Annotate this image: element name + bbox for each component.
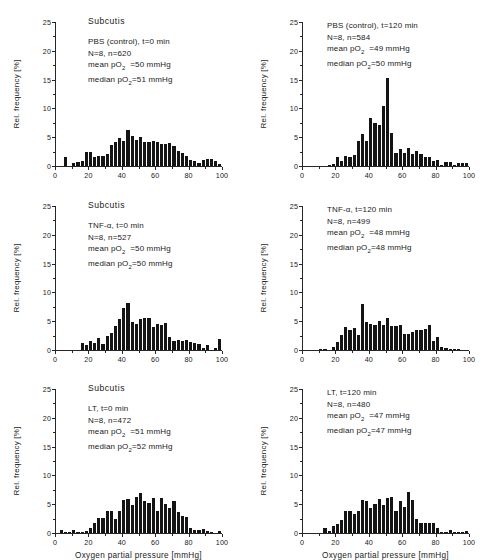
histogram-bar — [453, 349, 456, 350]
y-tick-label: 10 — [31, 471, 51, 480]
x-tick-label: 0 — [41, 355, 69, 364]
histogram-bar — [424, 329, 427, 350]
histogram-bar — [444, 532, 447, 533]
histogram-bar — [72, 530, 75, 533]
x-tick-label: 40 — [355, 355, 383, 364]
histogram-bar — [365, 141, 368, 166]
x-tick — [55, 534, 56, 537]
x-tick-label: 40 — [108, 355, 136, 364]
x-tick-label: 20 — [321, 171, 349, 180]
histogram-bar — [164, 504, 167, 533]
histogram-bar — [407, 334, 410, 350]
chart-panel-pbs-t120: 0204060801000510152025Rel. frequency [%]… — [247, 8, 501, 186]
histogram-bar — [147, 318, 150, 350]
histogram-bar — [202, 529, 205, 533]
annotation-condition: TNF-α, t=120 min — [327, 205, 392, 214]
y-tick-label: 0 — [278, 346, 298, 355]
x-tick-label: 0 — [41, 171, 69, 180]
y-tick-label: 10 — [31, 104, 51, 113]
histogram-bar — [361, 500, 364, 533]
x-tick-label: 60 — [388, 538, 416, 547]
histogram-bar — [122, 500, 125, 533]
histogram-bar — [369, 324, 372, 350]
histogram-bar — [168, 508, 171, 533]
histogram-bar — [390, 133, 393, 166]
histogram-bar — [126, 303, 129, 350]
histogram-bar — [436, 160, 439, 166]
histogram-bar — [332, 347, 335, 350]
annotation-mean: mean pO2 =50 mmHg — [88, 244, 171, 253]
histogram-bar — [68, 532, 71, 533]
panel-title-tissue: Subcutis — [88, 200, 125, 210]
histogram-bar — [323, 349, 326, 350]
panel-annotations: LT, t=120 min N=8, n=480 mean pO2 =47 mm… — [327, 387, 412, 441]
histogram-bar — [218, 531, 221, 533]
annotation-counts: N=8, n=527 — [88, 233, 131, 242]
chart-panel-lt-t120: 0204060801000510152025Rel. frequency [%]… — [247, 375, 501, 553]
x-tick — [469, 351, 470, 354]
histogram-bar — [449, 530, 452, 533]
x-tick-minor — [319, 167, 320, 169]
x-tick-minor — [319, 351, 320, 353]
x-tick-minor — [419, 167, 420, 169]
y-axis-label: Rel. frequency [%] — [259, 203, 268, 353]
x-tick-minor — [105, 167, 106, 169]
histogram-bar — [361, 304, 364, 350]
x-tick — [155, 351, 156, 354]
histogram-bar — [206, 159, 209, 166]
histogram-bar — [197, 344, 200, 350]
histogram-bar — [114, 326, 117, 350]
histogram-bar — [336, 342, 339, 350]
y-tick-label: 0 — [31, 162, 51, 171]
y-tick-label: 20 — [31, 414, 51, 423]
x-tick-minor — [452, 167, 453, 169]
histogram-bar — [415, 151, 418, 166]
x-tick-minor — [452, 351, 453, 353]
histogram-bar — [424, 157, 427, 166]
histogram-bar — [168, 337, 171, 350]
histogram-bar — [361, 134, 364, 166]
histogram-bar — [197, 530, 200, 533]
histogram-bar — [110, 145, 113, 166]
histogram-bar — [344, 511, 347, 533]
histogram-bar — [164, 323, 167, 350]
histogram-bar — [394, 153, 397, 166]
x-tick-minor — [319, 534, 320, 536]
x-tick-label: 80 — [175, 355, 203, 364]
x-tick-label: 20 — [74, 538, 102, 547]
annotation-median: median pO2=47 mmHg — [327, 426, 412, 435]
histogram-bar — [206, 345, 209, 350]
histogram-bar — [357, 511, 360, 533]
x-tick-label: 100 — [455, 538, 483, 547]
histogram-bar — [131, 505, 134, 533]
annotation-counts: N=8, n=584 — [327, 33, 370, 42]
annotation-counts: N=8, n=480 — [327, 400, 370, 409]
panel-annotations: TNF-α, t=120 min N=8, n=499 mean pO2 =48… — [327, 204, 412, 258]
histogram-bar — [202, 348, 205, 350]
histogram-bar — [89, 152, 92, 166]
histogram-bar — [172, 501, 175, 533]
y-tick — [52, 350, 56, 351]
histogram-bar — [185, 517, 188, 533]
y-tick-label: 15 — [31, 443, 51, 452]
histogram-bar — [214, 161, 217, 166]
x-tick — [436, 534, 437, 537]
histogram-bar — [432, 341, 435, 350]
histogram-bar — [177, 340, 180, 350]
y-tick-label: 20 — [278, 231, 298, 240]
x-tick-minor — [139, 351, 140, 353]
histogram-bar — [344, 327, 347, 350]
histogram-bar — [93, 523, 96, 533]
histogram-bar — [461, 532, 464, 533]
histogram-bar — [193, 161, 196, 166]
histogram-bar — [399, 501, 402, 533]
x-tick-label: 100 — [208, 355, 236, 364]
histogram-bar — [457, 532, 460, 533]
x-tick-minor — [386, 534, 387, 536]
histogram-bar — [139, 493, 142, 533]
histogram-bar — [122, 141, 125, 166]
histogram-bar — [332, 164, 335, 166]
histogram-bar — [399, 325, 402, 350]
y-tick-label: 15 — [31, 76, 51, 85]
histogram-bar — [172, 146, 175, 166]
